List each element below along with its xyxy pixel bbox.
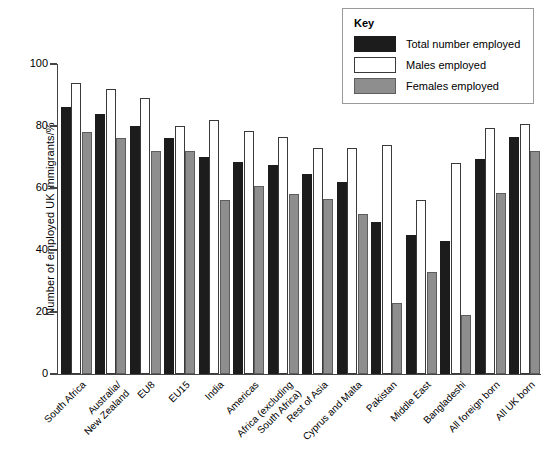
y-axis-tick [50, 63, 57, 64]
legend-item: Females employed [354, 78, 524, 94]
bar-male [106, 89, 116, 374]
legend-label: Males employed [406, 59, 486, 71]
legend-item: Total number employed [354, 36, 524, 52]
bar-total [302, 174, 312, 374]
bar-male [140, 98, 150, 374]
legend-title: Key [354, 17, 524, 29]
bar-male [278, 137, 288, 374]
bar-total [475, 159, 485, 374]
y-axis-tick [50, 125, 57, 126]
bar-group [199, 64, 230, 374]
y-axis-tick-label: 40 [4, 244, 48, 255]
bar-female [185, 151, 195, 374]
bar-total [61, 107, 71, 374]
bar-total [233, 162, 243, 374]
bar-chart-figure: Number of employed UK immigrants/% 02040… [0, 0, 545, 473]
bar-group [371, 64, 402, 374]
legend-item: Males employed [354, 57, 524, 73]
bar-female [254, 186, 264, 374]
bar-group [440, 64, 471, 374]
bar-total [268, 165, 278, 374]
y-axis-tick-label: 60 [4, 182, 48, 193]
bar-male [244, 131, 254, 374]
bar-group [337, 64, 368, 374]
bar-total [164, 138, 174, 374]
bar-total [95, 114, 105, 374]
bar-group [61, 64, 92, 374]
y-axis-tick [50, 373, 57, 374]
y-axis-tick-label: 80 [4, 120, 48, 131]
bar-female [220, 200, 230, 374]
y-axis-tick-label: 20 [4, 306, 48, 317]
legend-swatch-female [354, 78, 396, 94]
bar-male [71, 83, 81, 374]
bar-male [416, 200, 426, 374]
bar-male [382, 145, 392, 374]
bar-male [451, 163, 461, 374]
bar-group [233, 64, 264, 374]
bar-group [164, 64, 195, 374]
bar-male [485, 128, 495, 374]
bar-group [130, 64, 161, 374]
y-axis-tick [50, 249, 57, 250]
legend-label: Total number employed [406, 38, 520, 50]
bar-total [199, 157, 209, 374]
y-axis-tick-labels: 020406080100 [0, 0, 48, 473]
bar-female [82, 132, 92, 374]
bar-group [475, 64, 506, 374]
plot-area [58, 64, 541, 374]
y-axis-tick-label: 0 [4, 368, 48, 379]
bar-male [175, 126, 185, 374]
bar-female [116, 138, 126, 374]
y-axis-tick [50, 187, 57, 188]
bar-total [130, 126, 140, 374]
bar-total [371, 222, 381, 374]
legend-swatch-total [354, 36, 396, 52]
bar-group [509, 64, 540, 374]
bar-total [406, 235, 416, 375]
bar-group [268, 64, 299, 374]
bar-group [95, 64, 126, 374]
bar-group [302, 64, 333, 374]
y-axis-tick [50, 311, 57, 312]
legend-swatch-male [354, 57, 396, 73]
legend-items: Total number employedMales employedFemal… [354, 36, 524, 94]
bar-male [520, 124, 530, 374]
bar-male [313, 148, 323, 374]
bar-female [289, 194, 299, 374]
y-axis-tick-label: 100 [4, 58, 48, 69]
legend-label: Females employed [406, 80, 499, 92]
bar-female [427, 272, 437, 374]
chart-legend: Key Total number employedMales employedF… [342, 8, 534, 104]
bar-male [209, 120, 219, 374]
bar-total [509, 137, 519, 374]
